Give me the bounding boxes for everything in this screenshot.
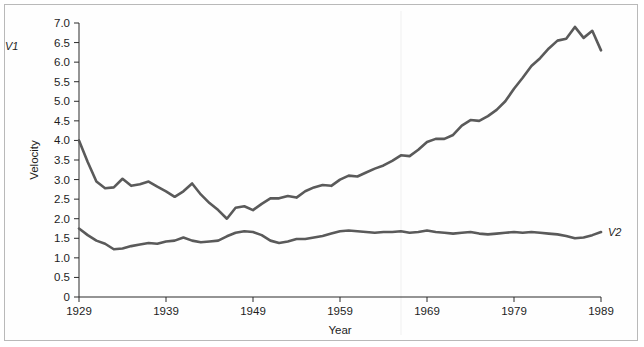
y-tick-labels: 00.51.01.52.02.53.03.54.04.55.05.56.06.5… xyxy=(54,17,70,303)
x-axis: 1929193919491959196919791989 Year xyxy=(66,297,614,336)
y-tick-label: 0.5 xyxy=(54,271,70,283)
series-line-v1 xyxy=(79,27,601,219)
y-tick-marks xyxy=(74,23,79,297)
figure-frame: 00.51.01.52.02.53.03.54.04.55.05.56.06.5… xyxy=(4,4,638,341)
y-tick-label: 2.0 xyxy=(54,213,70,225)
line-chart: 00.51.01.52.02.53.03.54.04.55.05.56.06.5… xyxy=(5,5,639,342)
x-tick-label: 1959 xyxy=(327,305,353,317)
x-tick-label: 1989 xyxy=(588,305,614,317)
x-tick-label: 1969 xyxy=(414,305,440,317)
y-tick-label: 3.5 xyxy=(54,154,70,166)
y-tick-label: 4.0 xyxy=(54,134,70,146)
x-tick-label: 1929 xyxy=(66,305,92,317)
series-label-v2: V2 xyxy=(608,226,621,238)
series-line-v2 xyxy=(79,229,601,250)
y-tick-label: 5.0 xyxy=(54,95,70,107)
series-lines xyxy=(79,27,601,249)
y-tick-label: 5.5 xyxy=(54,76,70,88)
x-tick-labels: 1929193919491959196919791989 xyxy=(66,305,614,317)
x-tick-marks xyxy=(79,297,601,302)
x-axis-title: Year xyxy=(328,324,351,336)
y-tick-label: 6.0 xyxy=(54,56,70,68)
x-tick-label: 1949 xyxy=(240,305,266,317)
y-tick-label: 1.5 xyxy=(54,232,70,244)
y-axis-title: Velocity xyxy=(28,140,40,180)
x-tick-label: 1979 xyxy=(501,305,527,317)
y-tick-label: 3.0 xyxy=(54,174,70,186)
x-tick-label: 1939 xyxy=(153,305,179,317)
y-tick-label: 7.0 xyxy=(54,17,70,29)
y-tick-label: 0 xyxy=(64,291,70,303)
y-tick-label: 2.5 xyxy=(54,193,70,205)
series-label-v1: V1 xyxy=(5,40,18,52)
y-tick-label: 6.5 xyxy=(54,37,70,49)
y-tick-label: 4.5 xyxy=(54,115,70,127)
y-tick-label: 1.0 xyxy=(54,252,70,264)
y-axis: 00.51.01.52.02.53.03.54.04.55.05.56.06.5… xyxy=(28,17,79,303)
